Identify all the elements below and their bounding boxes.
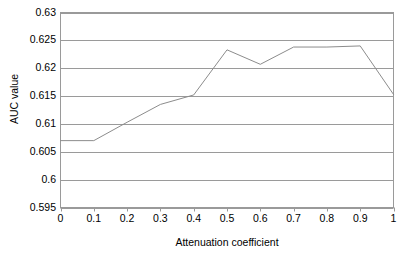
x-tick-label: 0.7 (279, 212, 309, 224)
auc-attenuation-line-chart: AUC value 0.5950.60.6050.610.6150.620.62… (0, 0, 416, 261)
x-tick-label: 0.2 (112, 212, 142, 224)
x-tick-label: 0.6 (245, 212, 275, 224)
x-tick-label: 0.9 (345, 212, 375, 224)
x-tick-label: 0.5 (212, 212, 242, 224)
x-tick-label: 0.1 (79, 212, 109, 224)
x-axis-title: Attenuation coefficient (60, 236, 394, 248)
x-tick-label: 0 (46, 212, 76, 224)
x-tick-label: 0.8 (312, 212, 342, 224)
x-tick-label: 0.4 (179, 212, 209, 224)
x-tick-label: 0.3 (145, 212, 175, 224)
x-tick-label: 1 (379, 212, 409, 224)
x-axis-tick-labels: 00.10.20.30.40.50.60.70.80.91 (0, 0, 416, 261)
